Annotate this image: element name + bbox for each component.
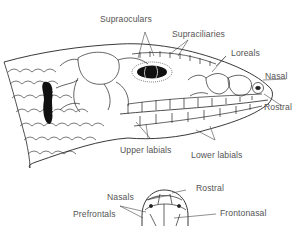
top-view-head xyxy=(142,190,188,226)
lizard-head-illustration xyxy=(0,0,297,226)
side-view-leaders xyxy=(136,32,286,140)
label-prefrontals: Prefrontals xyxy=(73,210,116,219)
label-supraoculars: Supraoculars xyxy=(100,15,152,24)
label-rostral: Rostral xyxy=(264,103,292,112)
label-rostral-top: Rostral xyxy=(196,184,224,193)
label-upper-labials: Upper labials xyxy=(120,146,171,155)
label-frontonasal: Frontonasal xyxy=(220,209,266,218)
label-supraciliaries: Supraciliaries xyxy=(172,30,225,39)
label-nasal: Nasal xyxy=(265,72,287,81)
label-lower-labials: Lower labials xyxy=(191,151,242,160)
scale-diagram: Supraoculars Supraciliaries Loreals Nasa… xyxy=(0,0,297,226)
eye xyxy=(137,66,167,79)
label-nasals: Nasals xyxy=(107,193,134,202)
label-loreals: Loreals xyxy=(231,49,260,58)
ear-opening xyxy=(42,82,52,124)
